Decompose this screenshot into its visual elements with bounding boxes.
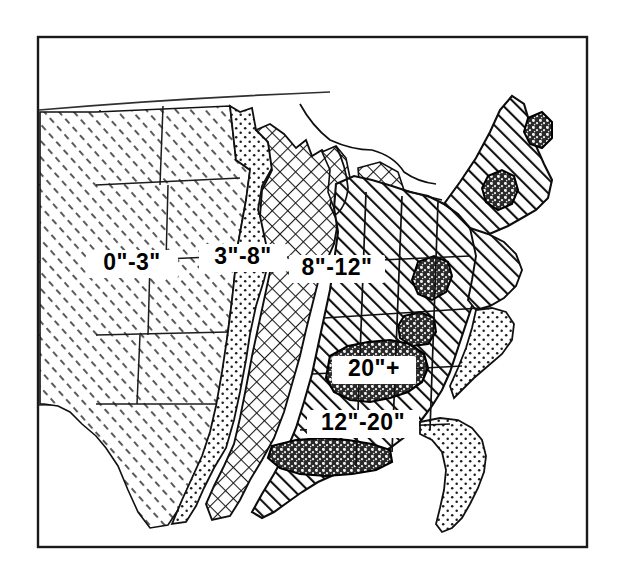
class-label-20-plus: 20"+ <box>332 355 416 384</box>
class-label-8-12: 8"-12" <box>289 254 385 283</box>
class-20-plus-core-gulf-coast <box>268 438 392 476</box>
map-canvas: 0"-3" 3"-8" 8"-12" 20"+ 12"-20" <box>0 0 621 578</box>
class-label-12-20-text: 12"-20" <box>321 409 405 435</box>
class-label-20-plus-text: 20"+ <box>348 355 400 381</box>
class-label-3-8-text: 3"-8" <box>214 243 272 269</box>
class-20-plus-core-new-england <box>482 170 518 210</box>
class-20-plus-core-appalachian-south <box>398 312 436 346</box>
class-label-0-3-text: 0"-3" <box>103 249 161 275</box>
class-label-3-8: 3"-8" <box>199 243 287 272</box>
precipitation-class-map-figure: 0"-3" 3"-8" 8"-12" 20"+ 12"-20" <box>0 0 621 578</box>
class-20-plus-core-maine <box>524 112 552 148</box>
class-label-12-20: 12"-20" <box>307 409 419 438</box>
class-label-8-12-text: 8"-12" <box>302 254 373 280</box>
class-label-0-3: 0"-3" <box>86 249 178 278</box>
